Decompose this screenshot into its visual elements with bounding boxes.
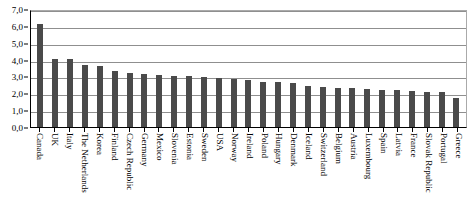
x-tick-slot — [166, 128, 181, 132]
x-tick-label: Greece — [453, 133, 462, 158]
x-tick-slot — [286, 128, 301, 132]
bar-slot — [167, 11, 182, 127]
x-tick-mark — [218, 128, 219, 132]
bar-slot — [152, 11, 167, 127]
y-tick-label: 0,0 — [12, 124, 23, 133]
x-tick-mark — [427, 128, 428, 132]
x-tick-mark — [383, 128, 384, 132]
y-tick-label: 3,0 — [12, 73, 23, 82]
x-tick-label: Switzerland — [319, 133, 328, 176]
x-tick-label: Iceland — [304, 133, 313, 159]
x-tick-label: Czech Republic — [125, 133, 134, 190]
x-tick-label: Estonia — [184, 133, 193, 160]
bar — [424, 92, 430, 127]
x-tick-mark — [99, 128, 100, 132]
x-label-slot: Iceland — [301, 133, 316, 213]
x-tick-label: UK — [50, 133, 59, 146]
x-tick-slot — [226, 128, 241, 132]
bar-slot — [92, 11, 107, 127]
x-tick-mark — [39, 128, 40, 132]
bar-slot — [271, 11, 286, 127]
bar-slot — [300, 11, 315, 127]
x-tick-label: Germany — [140, 133, 149, 167]
x-tick-slot — [376, 128, 391, 132]
x-tick-slot — [346, 128, 361, 132]
x-tick-label: Slovak Republic — [423, 133, 432, 193]
x-tick-label: Portugal — [438, 133, 447, 164]
y-tick-mark — [24, 128, 28, 129]
y-tick-mark — [24, 10, 28, 11]
x-tick-mark — [144, 128, 145, 132]
x-tick-label: Korea — [95, 133, 104, 155]
x-tick-slot — [301, 128, 316, 132]
x-label-slot: Finland — [107, 133, 122, 213]
bar — [305, 86, 311, 127]
x-tick-mark — [69, 128, 70, 132]
x-tick-mark — [308, 128, 309, 132]
x-tick-label: France — [408, 133, 417, 158]
bar-slot — [360, 11, 375, 127]
x-tick-mark — [323, 128, 324, 132]
x-tick-slot — [181, 128, 196, 132]
x-tick-label: Luxembourg — [364, 133, 373, 179]
x-tick-slot — [256, 128, 271, 132]
bar-slot — [78, 11, 93, 127]
x-tick-slot — [137, 128, 152, 132]
y-tick-mark — [24, 77, 28, 78]
bar — [112, 71, 118, 127]
bar-slot — [63, 11, 78, 127]
bar — [171, 76, 177, 127]
x-label-slot: Italy — [62, 133, 77, 213]
bar — [379, 90, 385, 127]
bar-slot — [241, 11, 256, 127]
bar-slot — [404, 11, 419, 127]
bar — [335, 88, 341, 127]
x-tick-label: Mexico — [154, 133, 163, 161]
x-tick-label: Belgium — [334, 133, 343, 164]
x-label-slot: Belgium — [331, 133, 346, 213]
bar — [37, 24, 43, 127]
x-tick-slot — [32, 128, 47, 132]
x-label-slot: France — [405, 133, 420, 213]
bar — [290, 83, 296, 127]
x-tick-slot — [77, 128, 92, 132]
bar — [97, 66, 103, 127]
bar-slot — [226, 11, 241, 127]
x-tick-label: Hungary — [274, 133, 283, 165]
x-tick-mark — [54, 128, 55, 132]
x-tick-label: The Netherlands — [80, 133, 89, 193]
bar — [216, 78, 222, 127]
x-tick-slot — [316, 128, 331, 132]
x-label-slot: UK — [47, 133, 62, 213]
x-tick-label: Denmark — [289, 133, 298, 167]
bar — [127, 73, 133, 127]
x-tick-slot — [391, 128, 406, 132]
x-tick-mark — [158, 128, 159, 132]
x-label-slot: Slovak Republic — [420, 133, 435, 213]
x-tick-mark — [368, 128, 369, 132]
x-label-slot: Greece — [450, 133, 465, 213]
x-label-slot: Spain — [376, 133, 391, 213]
x-label-slot: Korea — [92, 133, 107, 213]
x-label-slot: The Netherlands — [77, 133, 92, 213]
x-label-slot: Mexico — [152, 133, 167, 213]
bar — [260, 82, 266, 128]
x-label-slot: Latvia — [391, 133, 406, 213]
x-tick-slot — [331, 128, 346, 132]
x-label-slot: Austria — [346, 133, 361, 213]
x-tick-mark — [293, 128, 294, 132]
y-tick-label: 7,0 — [12, 6, 23, 15]
bar — [364, 89, 370, 127]
x-label-slot: USA — [211, 133, 226, 213]
bar-slot — [182, 11, 197, 127]
bar-slot — [390, 11, 405, 127]
bar-slot — [315, 11, 330, 127]
x-tick-mark — [442, 128, 443, 132]
bar — [231, 79, 237, 127]
x-tick-mark — [173, 128, 174, 132]
x-label-slot: Norway — [226, 133, 241, 213]
bar-slot — [107, 11, 122, 127]
bar — [275, 82, 281, 127]
x-axis-labels: CanadaUKItalyThe NetherlandsKoreaFinland… — [30, 133, 467, 213]
bar-chart: 7,06,05,04,03,02,01,00,0 CanadaUKItalyTh… — [0, 0, 473, 213]
